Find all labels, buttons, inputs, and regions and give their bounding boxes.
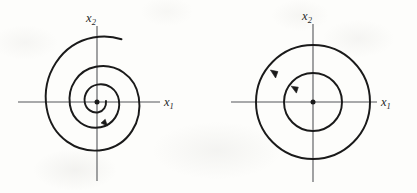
origin-dot [95, 100, 100, 105]
inner-orbit-direction-arrow-icon [291, 86, 298, 93]
spiral-trajectory-curve [46, 36, 140, 150]
outer-orbit-direction-arrow-icon [270, 70, 278, 78]
unstable-spiral-plot: x2 x1 [0, 0, 209, 193]
horizontal-axis-label: x1 [163, 95, 174, 111]
vertical-axis-label: x2 [85, 11, 97, 27]
panel-unstable-spiral: x2 x1 [0, 0, 209, 193]
horizontal-axis-label: x1 [380, 95, 391, 111]
panel-center-orbits: x2 x1 [209, 0, 417, 193]
figure-canvas: x2 x1 x2 x1 [0, 0, 417, 193]
spiral-direction-arrow-icon [101, 119, 107, 126]
center-orbits-plot: x2 x1 [209, 0, 417, 193]
origin-dot [311, 100, 316, 105]
vertical-axis-label: x2 [301, 9, 313, 25]
